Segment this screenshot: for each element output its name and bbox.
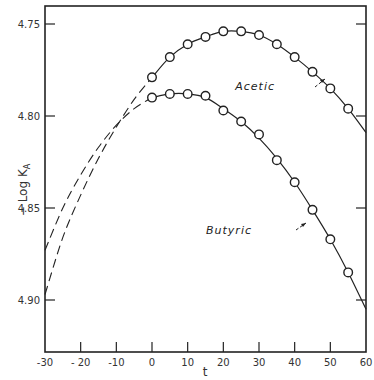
x-axis-label: t bbox=[203, 365, 208, 379]
x-tick-label: 10 bbox=[181, 357, 194, 368]
y-tick-label: 4.90 bbox=[18, 295, 40, 306]
butyric-fit-curve bbox=[152, 93, 366, 309]
y-tick-label: 4.75 bbox=[18, 19, 40, 30]
acetic-data-point bbox=[290, 53, 299, 62]
butyric-data-point bbox=[201, 91, 210, 100]
butyric-data-point bbox=[326, 235, 335, 244]
plot-border bbox=[45, 6, 366, 352]
x-tick-label: 60 bbox=[360, 357, 373, 368]
acetic-data-point bbox=[344, 104, 353, 113]
butyric-data-point bbox=[183, 90, 192, 99]
x-tick-label: 0 bbox=[149, 357, 155, 368]
series-curves bbox=[45, 31, 366, 309]
x-tick-label: 40 bbox=[288, 357, 301, 368]
acetic-data-point bbox=[237, 27, 246, 36]
x-tick-label: -10 bbox=[108, 357, 124, 368]
acetic-data-point bbox=[201, 33, 210, 42]
x-tick-label: - 20 bbox=[71, 357, 91, 368]
y-axis-ticks: 4.754.804.854.90 bbox=[18, 19, 366, 306]
y-axis-label-main: − Log K bbox=[16, 168, 30, 216]
acetic-extrapolation-dashed bbox=[45, 77, 152, 294]
acetic-label: Acetic bbox=[234, 80, 275, 93]
butyric-label: Butyric bbox=[206, 224, 252, 237]
butyric-extrapolation-dashed bbox=[45, 98, 152, 251]
acetic-data-point bbox=[183, 40, 192, 49]
y-tick-label: 4.80 bbox=[18, 111, 40, 122]
butyric-data-point bbox=[219, 106, 228, 115]
x-tick-label: -30 bbox=[37, 357, 53, 368]
chart-canvas: -30- 20-100102030405060 4.754.804.854.90… bbox=[0, 0, 374, 380]
butyric-data-point bbox=[255, 130, 264, 139]
y-axis-label-sub: A bbox=[23, 163, 32, 169]
x-tick-label: 50 bbox=[324, 357, 337, 368]
acetic-data-point bbox=[166, 53, 175, 62]
series-labels: AceticButyric bbox=[206, 79, 325, 237]
acetic-data-point bbox=[326, 84, 335, 93]
x-tick-label: 20 bbox=[217, 357, 230, 368]
svg-text:− Log KA: − Log KA bbox=[16, 163, 32, 216]
acetic-data-point bbox=[273, 40, 282, 49]
acetic-data-point bbox=[308, 68, 317, 77]
x-tick-label: 30 bbox=[253, 357, 266, 368]
plot-frame bbox=[45, 6, 366, 352]
butyric-data-point bbox=[148, 93, 157, 102]
butyric-data-point bbox=[273, 156, 282, 165]
acetic-data-point bbox=[148, 73, 157, 82]
butyric-data-point bbox=[166, 90, 175, 99]
butyric-data-point bbox=[237, 117, 246, 126]
y-axis-label: − Log KA bbox=[16, 163, 32, 216]
series-markers bbox=[148, 27, 353, 277]
butyric-data-point bbox=[308, 206, 317, 215]
acetic-data-point bbox=[255, 31, 264, 40]
butyric-data-point bbox=[344, 268, 353, 277]
acetic-data-point bbox=[219, 27, 228, 36]
butyric-data-point bbox=[290, 178, 299, 187]
